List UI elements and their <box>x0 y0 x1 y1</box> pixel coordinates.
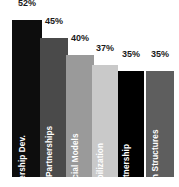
bar-value-label-2: 40% <box>71 34 89 43</box>
bar-value-label-4: 35% <box>122 50 140 59</box>
bar-value-label-3: 37% <box>96 44 114 53</box>
bar-category-label-0: Leadership Dev. <box>19 135 27 187</box>
bar-chart: 52% Leadership Dev. 45% Church Partnersh… <box>0 0 179 187</box>
bar-2: Financial Models <box>66 55 94 177</box>
bar-category-label-2: Financial Models <box>72 133 80 187</box>
bar-group-3: 37% Mobilization <box>92 55 118 177</box>
bar-5: Mission Structures <box>146 71 174 177</box>
bar-group-5: 35% Mission Structures <box>146 61 174 177</box>
bar-0: Leadership Dev. <box>12 20 42 177</box>
bar-group-4: 35% Partnership <box>118 61 144 177</box>
bar-category-label-1: Church Partnerships <box>46 126 54 187</box>
bar-3: Mobilization <box>92 65 118 177</box>
bar-value-label-1: 45% <box>45 17 63 26</box>
chart-plot-area: 52% Leadership Dev. 45% Church Partnersh… <box>0 0 179 187</box>
bar-group-0: 52% Leadership Dev. <box>12 10 42 177</box>
bar-category-label-5: Mission Structures <box>152 129 160 187</box>
bar-1: Church Partnerships <box>40 38 68 177</box>
bar-category-label-3: Mobilization <box>97 143 105 187</box>
bar-4: Partnership <box>118 71 144 177</box>
bar-value-label-0: 52% <box>18 0 36 8</box>
bar-value-label-5: 35% <box>151 50 169 59</box>
bar-group-1: 45% Church Partnerships <box>40 28 68 177</box>
bar-group-2: 40% Financial Models <box>66 45 94 177</box>
bar-category-label-4: Partnership <box>123 144 131 187</box>
